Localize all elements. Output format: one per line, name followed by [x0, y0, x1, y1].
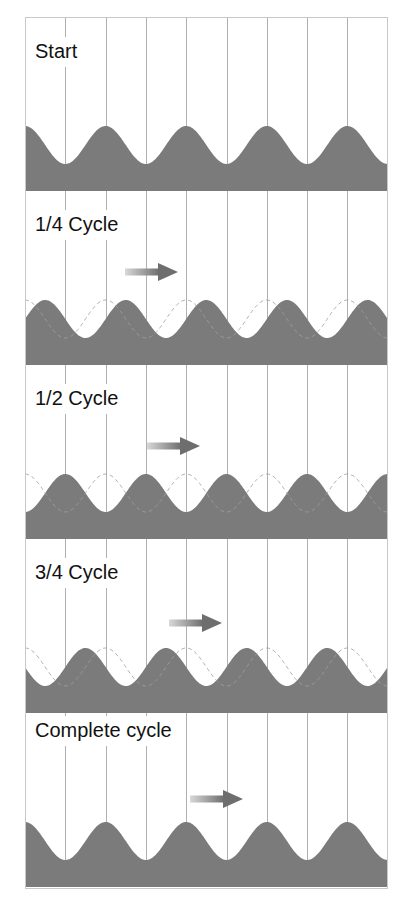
panel-label: Complete cycle [33, 716, 175, 746]
panel-half-cycle: 1/2 Cycle [25, 365, 388, 539]
panel-complete-cycle: Complete cycle [25, 713, 388, 887]
panel-three-quarter-cycle: 3/4 Cycle [25, 539, 388, 713]
panel-label: 1/4 Cycle [33, 210, 121, 240]
wave-fill [25, 648, 388, 713]
panel-quarter-cycle: 1/4 Cycle [25, 191, 388, 365]
direction-arrow-icon [125, 263, 178, 281]
panel-label: Start [33, 37, 80, 67]
panel-label: 3/4 Cycle [33, 558, 121, 588]
panel-label: 1/2 Cycle [33, 384, 121, 414]
direction-arrow-icon [169, 614, 222, 632]
wave-fill [25, 126, 388, 191]
wave-fill [25, 822, 388, 887]
wave-cycle-diagram: Start 1/4 Cycle 1/2 Cycle 3/4 Cycle Comp… [25, 17, 388, 887]
panel-start: Start [25, 17, 388, 191]
direction-arrow-icon [190, 790, 243, 808]
direction-arrow-icon [147, 437, 200, 455]
wave-fill [25, 474, 388, 539]
wave-fill [25, 300, 388, 365]
